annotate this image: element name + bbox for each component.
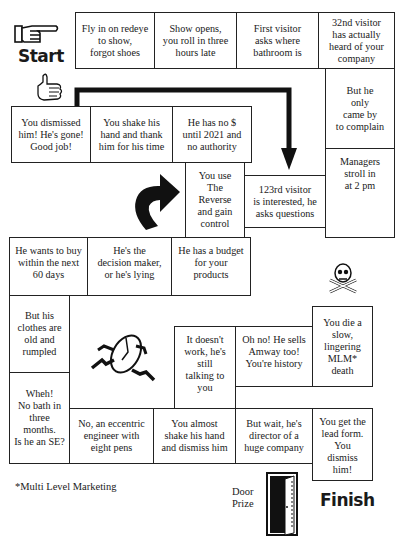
running-clock-icon: [84, 330, 164, 386]
square-4: 32nd visitor has actually heard of your …: [318, 12, 395, 69]
footnote: *Multi Level Marketing: [15, 481, 116, 493]
square-19: But wait, he's director of a huge compan…: [235, 408, 313, 464]
square-1: Fly in on redeye to show, forgot shoes: [75, 12, 155, 69]
open-door-icon: [263, 471, 303, 539]
square-3: First visitor asks where bathroom is: [236, 12, 319, 69]
square-18: You almost shake his hand and dismiss hi…: [153, 408, 236, 464]
square-22: You die a slow, lingering MLM* death: [312, 306, 373, 387]
square-6: Managers stroll in at 2 pm: [325, 148, 395, 238]
square-15: But his clothes are old and rumpled: [9, 295, 70, 373]
curved-arrow-icon: [130, 170, 182, 232]
square-10: You shake his hand and thank him for his…: [90, 106, 173, 163]
door-prize-label: Door Prize: [232, 486, 254, 510]
finish-label: Finish: [320, 490, 375, 510]
square-2: Show opens, you roll in three hours late: [154, 12, 237, 69]
square-9: He has no $ until 2021 and no authority: [172, 106, 252, 163]
square-12: He has a budget for your products: [171, 237, 251, 296]
square-8: You use The Reverse and gain control: [185, 162, 245, 238]
square-13: He's the decision maker, or he's lying: [87, 237, 172, 296]
square-21: Oh no! He sells Amway too! You're histor…: [235, 326, 313, 387]
square-7: 123rd visitor is interested, he asks que…: [244, 175, 326, 228]
square-17: No, an eccentric engineer with eight pen…: [69, 408, 154, 464]
skull-crossbones-icon: [326, 262, 360, 296]
square-23: You get the lead form. You dismiss him!: [312, 408, 373, 481]
square-5: But he only came by to complain: [325, 68, 395, 149]
square-16: Wheh! No bath in three months. Is he an …: [9, 372, 70, 464]
square-20: It doesn't work, he's still talking to y…: [174, 326, 236, 409]
square-11: You dismissed him! He's gone! Good job!: [11, 106, 91, 163]
square-14: He wants to buy within the next 60 days: [9, 237, 88, 296]
